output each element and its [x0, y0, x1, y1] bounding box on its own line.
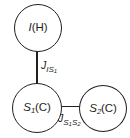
node-s1-carbon: S1(C)	[12, 83, 62, 133]
coupling-subscript-2-second: 2	[77, 121, 80, 127]
node-i-suffix: (H)	[32, 21, 48, 33]
coupling-label-j-is1: JIS1	[41, 60, 57, 71]
node-i-label: I(H)	[29, 22, 48, 34]
node-s2-suffix: (C)	[101, 102, 117, 114]
coupling-label-j-s1s2: JS1S2	[58, 113, 81, 124]
node-i-hydrogen: I(H)	[14, 4, 62, 52]
node-s2-carbon: S2(C)	[79, 85, 127, 132]
coupling-subscript-1: 1	[54, 68, 57, 74]
node-s1-symbol: S	[23, 101, 31, 113]
coupling-subscript-is: IS	[46, 65, 54, 74]
edge-i-to-s1	[36, 50, 38, 86]
node-s1-label: S1(C)	[23, 102, 50, 114]
node-s1-suffix: (C)	[35, 101, 51, 113]
node-s2-label: S2(C)	[89, 103, 116, 115]
coupling-subscript-s-first: S	[63, 118, 68, 127]
node-s2-symbol: S	[89, 102, 97, 114]
node-s2-index: 2	[97, 107, 101, 116]
node-s1-index: 1	[31, 106, 35, 115]
spin-coupling-diagram: I(H) S1(C) S2(C) JIS1 JS1S2	[0, 0, 130, 138]
